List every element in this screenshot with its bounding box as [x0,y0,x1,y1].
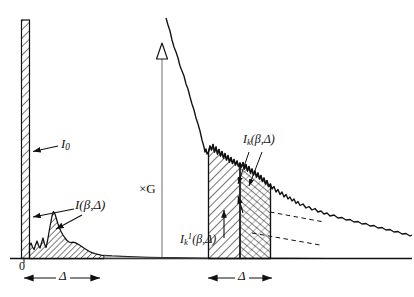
i-beta-delta-lobe [30,212,105,259]
label-ik-beta-delta: Ik(β,Δ) [243,133,275,147]
label-origin: 0 [19,260,25,272]
i0-leader-line [33,146,58,152]
label-i0: I0 [61,137,70,152]
label-delta-right: Δ [235,269,249,282]
label-ik1-rest: (β,Δ) [192,232,216,246]
figure-canvas: I0 I(β,Δ) ×G Ik(β,Δ) Ik1(β,Δ) 0 Δ Δ [0,0,414,297]
dashed-guide-upper [270,212,324,222]
gain-arrow-head-triangle [157,43,168,59]
ik-beta-delta-crosshatch [240,163,271,259]
i0-bar [22,20,30,259]
label-i0-subscript: 0 [65,142,70,152]
magnified-decay-curve [166,18,412,236]
label-delta-left: Δ [56,269,70,282]
label-i-beta-delta: I(β,Δ) [75,198,105,211]
label-times-g: ×G [139,182,156,195]
label-ik1-beta-delta: Ik1(β,Δ) [180,232,216,246]
i-beta-delta-leader-inner [56,215,82,229]
label-ik-rest: (β,Δ) [251,132,275,146]
